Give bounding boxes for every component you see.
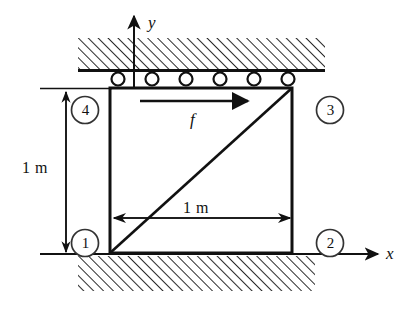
bottom-ground-support: [78, 256, 315, 291]
roller-icon: [112, 73, 125, 86]
figure-root: y x f 1 m 1 m 1 2 3 4: [0, 0, 410, 315]
top-hatching: [78, 38, 325, 70]
roller-support-group: [112, 73, 295, 86]
force-label: f: [190, 111, 195, 128]
roller-icon: [214, 73, 227, 86]
roller-icon: [282, 73, 295, 86]
roller-icon: [146, 73, 159, 86]
node-label-4: 4: [79, 103, 92, 118]
node-label-3: 3: [324, 103, 337, 118]
bottom-hatching: [78, 256, 315, 291]
horizontal-dimension-label: 1 m: [183, 200, 209, 216]
y-axis-label: y: [148, 14, 156, 31]
roller-icon: [180, 73, 193, 86]
vertical-dimension-label: 1 m: [22, 160, 48, 176]
roller-icon: [248, 73, 261, 86]
diagram-canvas: [0, 0, 410, 315]
node-label-1: 1: [79, 236, 92, 251]
node-label-2: 2: [324, 236, 337, 251]
top-ceiling-support: [78, 38, 325, 71]
x-axis-label: x: [386, 245, 394, 262]
